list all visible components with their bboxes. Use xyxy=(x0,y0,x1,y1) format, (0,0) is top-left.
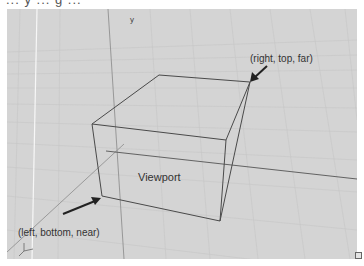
axis-gizmo xyxy=(19,243,33,256)
viewport-label: Viewport xyxy=(138,171,181,183)
y-axis-line xyxy=(108,9,124,259)
ground-grid xyxy=(7,9,357,259)
near-corner-label: (left, bottom, near) xyxy=(18,227,100,238)
white-axis-line xyxy=(32,9,37,259)
resize-handle-icon[interactable] xyxy=(355,252,362,259)
scene-graphics xyxy=(7,9,357,259)
y-axis-label: y xyxy=(130,15,134,24)
bottom-strip xyxy=(0,259,364,266)
3d-viewport[interactable]: (right, top, far) (left, bottom, near) V… xyxy=(7,9,357,259)
far-corner-label: (right, top, far) xyxy=(250,53,313,64)
top-strip: ... y ... g ... xyxy=(0,0,364,9)
cropped-header-text: ... y ... g ... xyxy=(6,0,82,7)
